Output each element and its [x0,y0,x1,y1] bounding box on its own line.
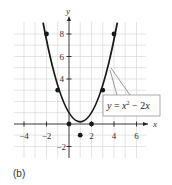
svg-text:4: 4 [112,131,117,141]
parabola-chart: −4 −2 2 4 6 8 6 4 −2 x y y = x2 − 2x [0,0,172,185]
y-axis-label: y [65,6,70,16]
svg-text:6: 6 [134,131,139,141]
svg-text:6: 6 [60,52,65,62]
svg-text:2: 2 [89,131,94,141]
svg-text:−2: −2 [42,131,52,141]
svg-text:8: 8 [60,29,65,39]
svg-text:−2: −2 [56,142,66,152]
x-axis-arrow-icon [143,122,148,126]
svg-text:−4: −4 [19,131,29,141]
figure-caption: (b) [13,168,25,179]
y-axis-arrow-icon [67,16,71,21]
x-axis-label: x [152,119,157,129]
callout-lines [110,68,130,95]
svg-text:4: 4 [60,74,65,84]
